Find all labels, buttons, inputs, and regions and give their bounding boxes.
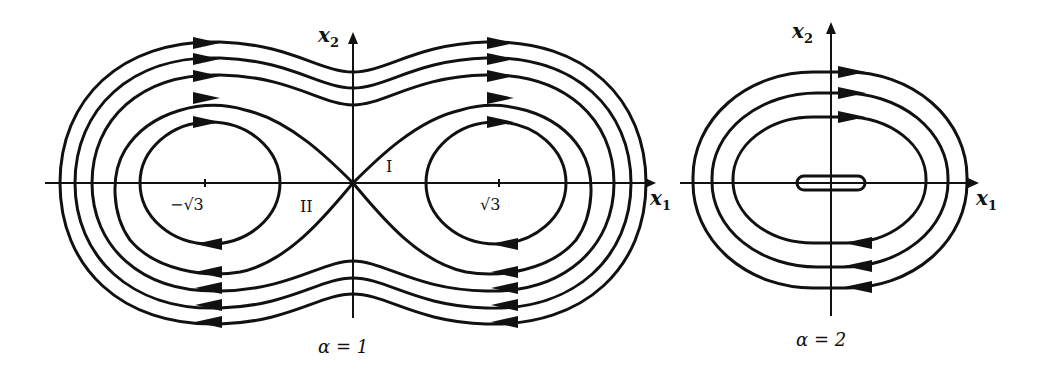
- caption-alpha-2: α = 2: [796, 329, 846, 350]
- arrow-right-icon: [487, 70, 514, 82]
- panel-alpha-2: x2 x1 α = 2: [680, 19, 997, 350]
- tick-label-pos-sqrt3: √3: [480, 195, 500, 214]
- arrow-left-icon: [195, 238, 222, 250]
- arrow-right-icon: [487, 116, 514, 128]
- region-label-I: I: [386, 157, 392, 176]
- arrow-right-icon: [193, 37, 220, 49]
- arrow-left-icon: [195, 266, 222, 278]
- axes-alpha-2: [680, 22, 979, 316]
- caption-alpha-1: α = 1: [318, 336, 368, 357]
- arrow-right-icon: [487, 37, 514, 49]
- arrow-right-icon: [193, 53, 220, 65]
- flow-arrows-alpha-2: [838, 66, 872, 293]
- arrow-right-icon: [487, 53, 514, 65]
- arrow-left-icon: [844, 237, 872, 249]
- arrow-left-icon: [844, 281, 872, 293]
- arrow-right-icon: [193, 70, 220, 82]
- phase-portrait-figure: x2 x1 −√3 √3 I II α = 1 x2: [0, 0, 1039, 375]
- arrow-left-icon: [491, 266, 518, 278]
- tick-label-neg-sqrt3: −√3: [170, 195, 204, 214]
- arrow-right-icon: [838, 66, 866, 78]
- x2-axis-arrow-icon: [826, 22, 836, 34]
- y-axis-label-alpha-2: x2: [791, 19, 813, 46]
- arrow-right-icon: [487, 92, 514, 104]
- y-axis-label-alpha-1: x2: [317, 23, 339, 50]
- arrow-right-icon: [193, 92, 220, 104]
- arrow-left-icon: [844, 260, 872, 272]
- arrow-right-icon: [838, 111, 866, 123]
- region-label-II: II: [300, 197, 313, 216]
- arrow-left-icon: [491, 238, 518, 250]
- flow-arrows-bottom: [195, 238, 518, 328]
- arrow-left-icon: [491, 316, 518, 328]
- arrow-left-icon: [195, 316, 222, 328]
- x2-axis-arrow-icon: [348, 32, 358, 44]
- arrow-right-icon: [193, 116, 220, 128]
- panel-alpha-1: x2 x1 −√3 √3 I II α = 1: [45, 23, 671, 357]
- arrow-right-icon: [838, 87, 866, 99]
- x-axis-label-alpha-2: x1: [975, 186, 997, 213]
- x-axis-label-alpha-1: x1: [649, 186, 671, 213]
